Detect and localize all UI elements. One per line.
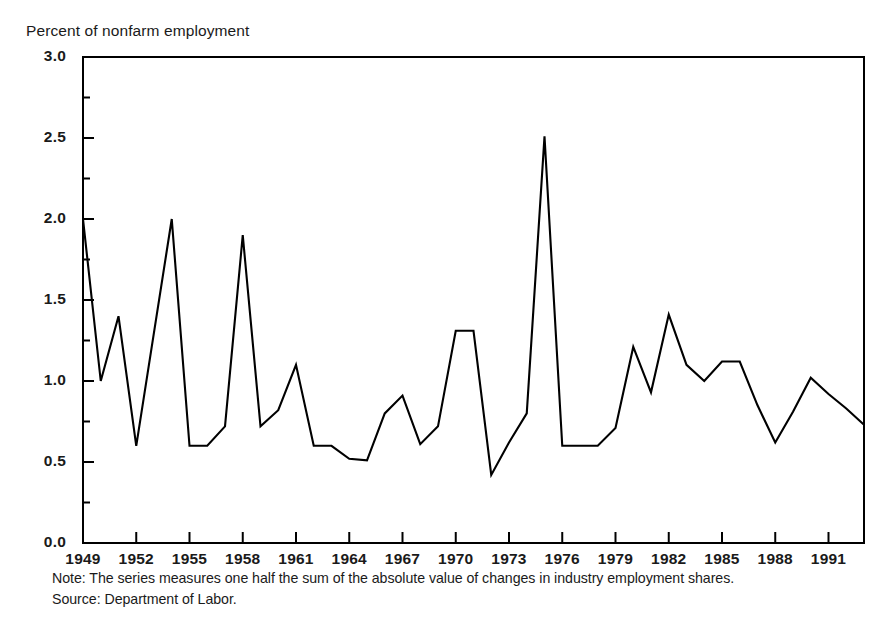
x-axis-ticks <box>83 532 829 543</box>
x-axis-label: 1949 <box>57 550 109 568</box>
x-axis-label: 1961 <box>270 550 322 568</box>
plot-frame <box>83 57 864 543</box>
line-chart-plot <box>0 0 891 626</box>
y-axis-label: 3.0 <box>22 47 66 65</box>
x-axis-label: 1973 <box>483 550 535 568</box>
figure-container: Percent of nonfarm employment 3.02.52.01… <box>0 0 891 626</box>
data-series-line <box>83 136 864 475</box>
x-axis-label: 1958 <box>217 550 269 568</box>
y-axis-label: 0.0 <box>22 533 66 551</box>
x-axis-label: 1964 <box>323 550 375 568</box>
y-axis-label: 2.5 <box>22 128 66 146</box>
x-axis-label: 1955 <box>164 550 216 568</box>
chart-note: Note: The series measures one half the s… <box>52 570 734 586</box>
x-axis-label: 1967 <box>377 550 429 568</box>
y-axis-label: 0.5 <box>22 452 66 470</box>
x-axis-label: 1988 <box>749 550 801 568</box>
x-axis-label: 1952 <box>110 550 162 568</box>
y-axis-label: 2.0 <box>22 209 66 227</box>
y-axis-label: 1.5 <box>22 290 66 308</box>
x-axis-label: 1985 <box>696 550 748 568</box>
x-axis-label: 1976 <box>536 550 588 568</box>
y-axis-label: 1.0 <box>22 371 66 389</box>
chart-source: Source: Department of Labor. <box>52 591 237 607</box>
x-axis-label: 1982 <box>643 550 695 568</box>
x-axis-label: 1970 <box>430 550 482 568</box>
x-axis-label: 1991 <box>803 550 855 568</box>
x-axis-label: 1979 <box>590 550 642 568</box>
